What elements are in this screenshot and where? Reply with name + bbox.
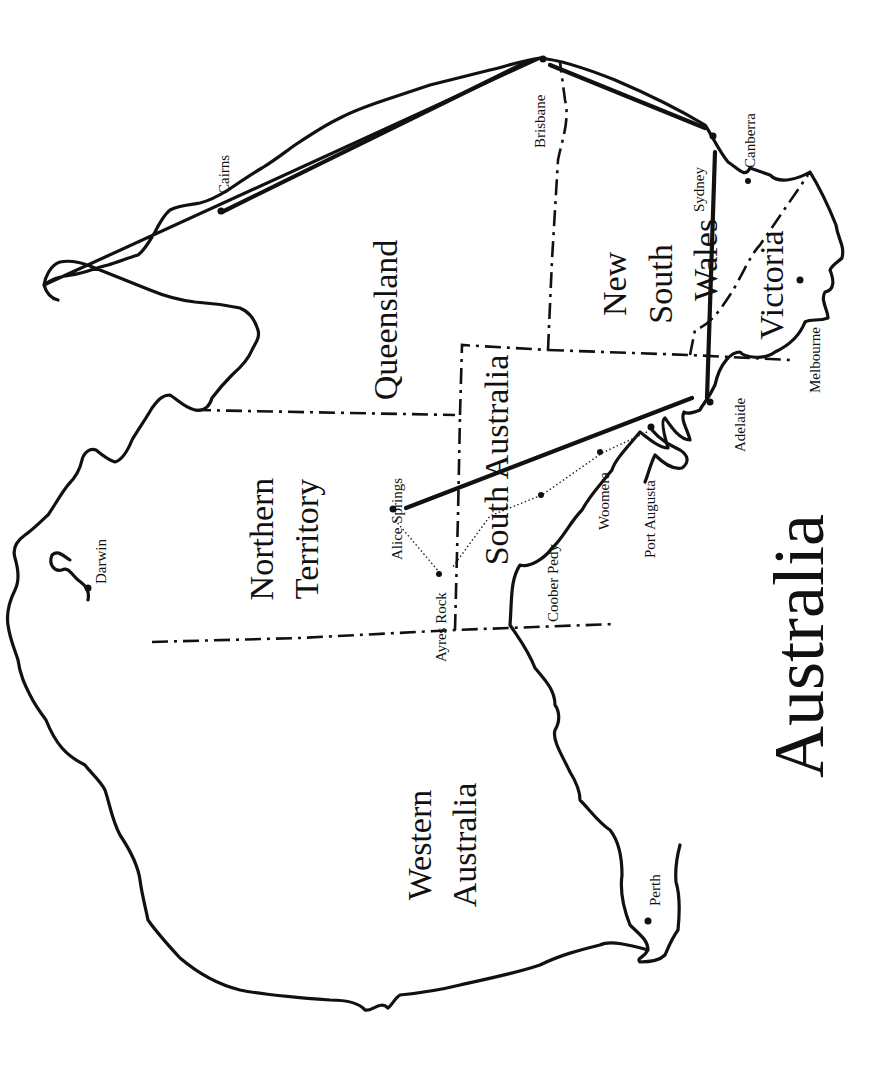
city-dot-cairns — [218, 208, 225, 215]
state-label-northern-territory: Northern Territory — [243, 478, 325, 601]
city-label-woomera: Woomera — [596, 472, 612, 530]
city-dot-port-augusta — [648, 424, 655, 431]
city-label-port-augusta: Port Augusta — [642, 480, 658, 558]
city-dot-sydney — [710, 133, 717, 140]
border-nt-qld — [195, 410, 455, 415]
city-dot-ayres-rock — [436, 571, 442, 577]
city-dot-brisbane — [540, 56, 547, 63]
state-label-queensland: Queensland — [367, 240, 404, 401]
border-nt-wa — [152, 624, 615, 642]
city-dot-woomera — [597, 449, 603, 455]
australia-map: Queensland New South Wales Victoria Sout… — [0, 0, 884, 1065]
city-label-adelaide: Adelaide — [732, 398, 748, 452]
city-label-canberra: Canberra — [742, 113, 758, 168]
city-dot-perth — [645, 918, 652, 925]
city-label-sydney: Sydney — [691, 167, 707, 213]
state-label-victoria: Victoria — [753, 230, 790, 339]
darwin-coast — [51, 553, 89, 600]
svg-text:South: South — [642, 244, 679, 323]
map-title: Australia — [759, 514, 839, 778]
state-label-western-australia: Western Australia — [401, 783, 483, 908]
svg-text:Western: Western — [401, 790, 438, 901]
svg-text:Northern: Northern — [243, 478, 280, 601]
city-dot-coober-pedy — [538, 492, 544, 498]
border-sa-nt — [455, 415, 460, 630]
state-label-nsw: New South Wales — [596, 219, 724, 324]
svg-text:Territory: Territory — [288, 479, 325, 599]
city-label-brisbane: Brisbane — [532, 94, 548, 148]
city-label-darwin: Darwin — [93, 539, 109, 584]
route-brisbane-sydney — [550, 65, 705, 128]
svg-text:Australia: Australia — [446, 783, 483, 908]
city-label-coober-pedy: Coober Pedy — [545, 544, 561, 622]
city-label-ayres-rock: Ayres Rock — [433, 592, 449, 662]
city-label-perth: Perth — [647, 874, 663, 906]
svg-text:New: New — [596, 251, 633, 316]
city-dot-darwin — [85, 585, 92, 592]
city-dot-melbourne — [797, 277, 804, 284]
city-dot-canberra — [745, 178, 751, 184]
route-cairns-brisbane — [222, 63, 525, 212]
city-label-alice-springs: Alice Springs — [389, 478, 405, 560]
state-label-south-australia: South Australia — [478, 355, 515, 566]
svg-text:Wales: Wales — [687, 219, 724, 301]
city-dot-adelaide — [707, 399, 714, 406]
border-qld-nsw — [548, 62, 567, 350]
city-label-melbourne: Melbourne — [807, 327, 823, 393]
city-label-cairns: Cairns — [216, 155, 232, 194]
